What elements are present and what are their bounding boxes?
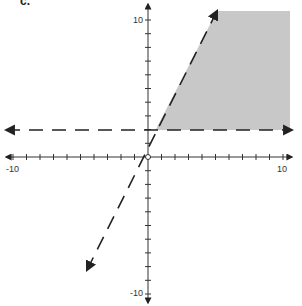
- y-min-label: -10: [130, 288, 143, 298]
- coordinate-plane: -10 10 10 -10: [0, 0, 302, 306]
- origin-marker: [146, 155, 151, 160]
- x-max-label: 10: [277, 164, 287, 174]
- x-min-label: -10: [6, 164, 19, 174]
- y-max-label: 10: [133, 15, 143, 25]
- shaded-region: [156, 11, 291, 130]
